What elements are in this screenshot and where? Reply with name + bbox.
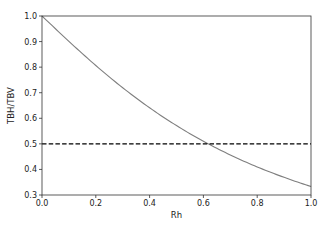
y-tick-label: 0.5 <box>24 140 37 149</box>
x-tick-label: 0.2 <box>89 199 102 208</box>
chart: 0.00.20.40.60.81.0Rh0.30.40.50.60.70.80.… <box>0 0 331 231</box>
y-tick-label: 0.9 <box>24 38 37 47</box>
axes-frame <box>42 16 311 195</box>
x-tick-label: 1.0 <box>305 199 318 208</box>
x-tick-label: 0.4 <box>143 199 156 208</box>
x-axis: 0.00.20.40.60.81.0Rh <box>36 195 318 220</box>
y-axis: 0.30.40.50.60.70.80.91.0TBH/TBV <box>6 12 42 200</box>
y-tick-label: 1.0 <box>24 12 37 21</box>
x-tick-label: 0.8 <box>251 199 264 208</box>
y-tick-label: 0.6 <box>24 114 37 123</box>
x-tick-label: 0.0 <box>36 199 49 208</box>
y-tick-label: 0.3 <box>24 191 37 200</box>
y-tick-label: 0.4 <box>24 165 37 174</box>
y-axis-label: TBH/TBV <box>6 87 16 125</box>
plot-area <box>42 16 311 186</box>
x-tick-label: 0.6 <box>197 199 210 208</box>
y-tick-label: 0.8 <box>24 63 37 72</box>
data-line <box>42 16 311 186</box>
x-axis-label: Rh <box>171 210 182 220</box>
y-tick-label: 0.7 <box>24 89 37 98</box>
